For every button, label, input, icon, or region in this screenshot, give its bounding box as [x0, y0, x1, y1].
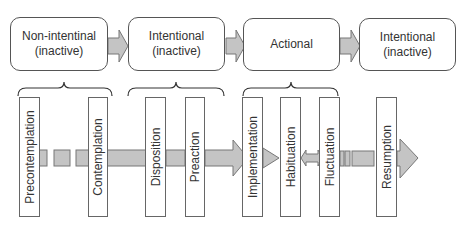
brace-non-intentional: [18, 82, 112, 96]
brace-actional: [243, 82, 338, 96]
phase-contemplation: Contemplation: [88, 97, 108, 217]
arrow-stage-3-4: [340, 30, 360, 62]
stage-label-line2: (inactive): [35, 44, 84, 59]
phase-label: Contemplation: [91, 118, 105, 195]
phase-label: Fluctuation: [323, 128, 337, 187]
stage-label-line2: (inactive): [383, 45, 432, 60]
stage-label-line1: Actional: [270, 37, 313, 52]
stage-box-non-intentional: Non-intentinal (inactive): [10, 17, 108, 71]
phase-label: Disposition: [149, 128, 163, 187]
brace-intentional: [128, 82, 224, 96]
phase-label: Resumption: [380, 125, 394, 189]
phase-implementation: Implementation: [242, 97, 263, 217]
phase-disposition: Disposition: [145, 97, 166, 217]
arrow-implementation: [263, 148, 279, 168]
phase-precontemplation: Precontemplation: [19, 97, 40, 217]
stage-box-intentional: Intentional (inactive): [128, 17, 225, 71]
phase-label: Precontemplation: [23, 110, 37, 203]
arrow-resumption: [397, 139, 418, 178]
stage-box-actional: Actional: [243, 18, 340, 71]
stage-label-line1: Intentional: [149, 29, 204, 44]
phase-preaction: Preaction: [185, 97, 205, 217]
phase-resumption: Resumption: [376, 97, 397, 217]
arrow-stage-1-2: [108, 30, 128, 62]
stage-label-line1: Non-intentinal: [22, 29, 96, 44]
phase-label: Habituation: [284, 127, 298, 188]
phase-fluctuation: Fluctuation: [319, 97, 340, 217]
phase-label: Preaction: [188, 132, 202, 183]
stage-label-line2: (inactive): [152, 44, 201, 59]
phase-habituation: Habituation: [280, 97, 301, 217]
phase-label: Implementation: [246, 116, 260, 198]
stage-label-line1: Intentional: [380, 30, 435, 45]
stage-box-intentional-resumed: Intentional (inactive): [359, 18, 456, 71]
